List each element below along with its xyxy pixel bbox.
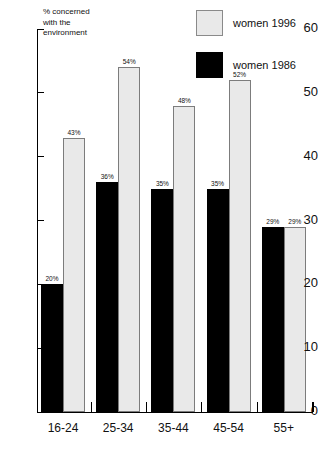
bar-value-label: 29% xyxy=(266,218,279,225)
y-axis-tick-label: 60 xyxy=(288,20,318,35)
bar-value-label: 36% xyxy=(101,173,114,180)
bar-value-label: 43% xyxy=(67,129,80,136)
bar-35-44-women-1996 xyxy=(173,106,195,412)
bar-value-label: 35% xyxy=(156,180,169,187)
x-axis-tick xyxy=(91,402,92,412)
bar-45-54-women-1996 xyxy=(229,80,251,412)
y-axis-tick-label: 30 xyxy=(288,212,318,227)
bar-25-34-women-1996 xyxy=(118,67,140,412)
bar-value-label: 35% xyxy=(211,180,224,187)
y-axis-tick-label: 50 xyxy=(288,84,318,99)
y-axis-tick-label: 20 xyxy=(288,275,318,290)
y-axis-tick xyxy=(37,156,44,157)
x-axis-category-label: 25-34 xyxy=(103,421,134,435)
bar-16-24-women-1996 xyxy=(63,138,85,412)
y-axis-tick-label: 10 xyxy=(288,339,318,354)
x-axis-category-label: 35-44 xyxy=(158,421,189,435)
y-axis-tick xyxy=(37,284,44,285)
bar-value-label: 48% xyxy=(178,97,191,104)
x-axis-tick xyxy=(257,402,258,412)
bar-55plus-women-1996 xyxy=(284,227,306,412)
y-axis-tick xyxy=(37,348,44,349)
y-axis-tick xyxy=(37,92,44,93)
x-axis-category-label: 16-24 xyxy=(48,421,79,435)
bar-25-34-women-1986 xyxy=(96,182,118,412)
bar-45-54-women-1986 xyxy=(207,189,229,412)
bar-value-label: 52% xyxy=(233,71,246,78)
x-axis-tick xyxy=(146,402,147,412)
bar-value-label: 20% xyxy=(45,275,58,282)
x-axis-tick-end xyxy=(313,402,314,412)
y-axis-tick xyxy=(37,412,44,413)
x-axis-tick xyxy=(201,402,202,412)
plot-area: 20%43%36%54%35%48%35%52%29%29% xyxy=(0,0,318,456)
bar-55plus-women-1986 xyxy=(262,227,284,412)
bar-chart: women 1996 women 1986 % concerned with t… xyxy=(0,0,318,456)
y-axis-tick xyxy=(37,29,44,30)
y-axis-tick-label: 40 xyxy=(288,148,318,163)
y-axis-tick xyxy=(37,220,44,221)
bar-16-24-women-1986 xyxy=(41,284,63,412)
bar-value-label: 54% xyxy=(123,58,136,65)
x-axis-category-label: 55+ xyxy=(274,421,294,435)
x-axis-category-label: 45-54 xyxy=(213,421,244,435)
bar-35-44-women-1986 xyxy=(151,189,173,412)
